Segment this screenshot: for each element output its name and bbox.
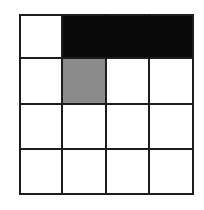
grid-cell-r4c4[interactable] — [150, 150, 194, 195]
grid-cell-r4c3[interactable] — [107, 150, 151, 195]
grid-cell-r3c4[interactable] — [150, 105, 194, 150]
grid-cell-r3c1[interactable] — [19, 105, 63, 150]
grid-cell-r3c2[interactable] — [63, 105, 107, 150]
grid-cell-r2c1[interactable] — [19, 59, 63, 104]
grid-cell-r2c3[interactable] — [107, 59, 151, 104]
grid-cell-r1c4[interactable] — [150, 14, 194, 59]
grid — [19, 14, 194, 195]
grid-cell-r4c2[interactable] — [63, 150, 107, 195]
grid-cell-r1c1[interactable] — [19, 14, 63, 59]
grid-cell-r1c3[interactable] — [107, 14, 151, 59]
grid-cell-r3c3[interactable] — [107, 105, 151, 150]
grid-cell-r2c4[interactable] — [150, 59, 194, 104]
grid-cell-r2c2[interactable] — [63, 59, 107, 104]
figure-canvas — [0, 0, 204, 210]
grid-cell-r4c1[interactable] — [19, 150, 63, 195]
grid-cell-r1c2[interactable] — [63, 14, 107, 59]
